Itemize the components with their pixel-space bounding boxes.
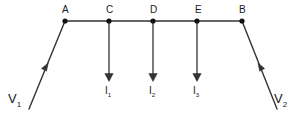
branch-arrow-i3-icon bbox=[193, 74, 201, 82]
source-label-v1-sub: 1 bbox=[17, 100, 21, 109]
source-arrow-v1-icon bbox=[42, 63, 49, 71]
branch-arrow-i2-icon bbox=[149, 74, 157, 82]
source-arrow-v2-icon bbox=[258, 63, 265, 71]
node-dot-c bbox=[106, 18, 111, 23]
current-label-i3-sub: 3 bbox=[196, 91, 199, 98]
node-label-e: E bbox=[195, 5, 202, 15]
branch-arrow-i1-icon bbox=[105, 74, 113, 82]
current-label-i2-sub: 2 bbox=[152, 91, 155, 98]
source-label-v1: V1 bbox=[8, 92, 21, 109]
diagram-canvas bbox=[0, 0, 306, 121]
node-dot-a bbox=[62, 18, 67, 23]
node-label-b: B bbox=[239, 5, 246, 15]
current-label-i2: I2 bbox=[149, 86, 155, 98]
source-label-v2-sub: 2 bbox=[283, 100, 287, 109]
node-dot-d bbox=[150, 18, 155, 23]
current-label-i1-sub: 1 bbox=[108, 91, 111, 98]
node-dot-e bbox=[194, 18, 199, 23]
circuit-diagram: A C D E B I1 I2 I3 V1 V2 bbox=[0, 0, 306, 121]
node-dot-b bbox=[239, 18, 244, 23]
node-label-c: C bbox=[106, 5, 113, 15]
source-label-v1-text: V bbox=[8, 91, 17, 106]
current-label-i1: I1 bbox=[105, 86, 111, 98]
source-label-v2-text: V bbox=[274, 91, 283, 106]
current-label-i3: I3 bbox=[193, 86, 199, 98]
source-label-v2: V2 bbox=[274, 92, 287, 109]
node-label-d: D bbox=[150, 5, 157, 15]
node-label-a: A bbox=[62, 5, 69, 15]
